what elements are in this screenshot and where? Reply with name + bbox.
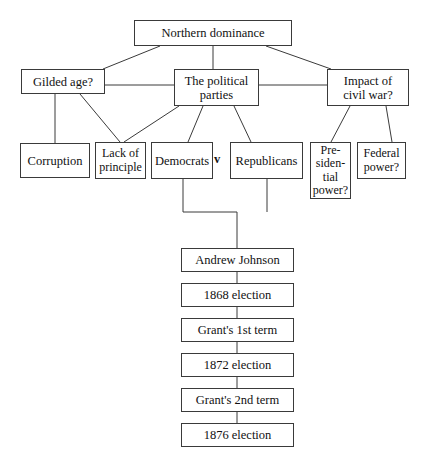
node-grants-2nd-term: Grant's 2nd term bbox=[181, 388, 294, 412]
edge-impact-civil-war-to-presidential-power bbox=[331, 106, 350, 142]
diagram-canvas: v Northern dominanceGilded age?The polit… bbox=[0, 0, 427, 466]
node-federal-power: Federal power? bbox=[357, 142, 406, 179]
edge-northern-dominance-to-gilded-age bbox=[103, 46, 160, 69]
node-grants-1st-term: Grant's 1st term bbox=[181, 318, 294, 342]
node-lack-of-principle: Lack of principle bbox=[95, 142, 146, 179]
node-election-1872: 1872 election bbox=[181, 353, 294, 377]
edge-northern-dominance-to-impact-civil-war bbox=[266, 46, 331, 69]
edge-democrats-to-andrew-johnson bbox=[183, 179, 237, 248]
node-impact-civil-war: Impact of civil war? bbox=[327, 69, 409, 106]
edge-political-parties-to-republicans bbox=[234, 106, 251, 142]
edge-political-parties-to-democrats bbox=[188, 106, 203, 142]
node-corruption: Corruption bbox=[20, 143, 90, 178]
edge-political-parties-to-lack-of-principle bbox=[124, 106, 179, 142]
node-election-1868: 1868 election bbox=[181, 283, 294, 307]
node-presidential-power: Pre- siden- tial power? bbox=[310, 142, 351, 199]
node-election-1876: 1876 election bbox=[181, 423, 294, 447]
node-northern-dominance: Northern dominance bbox=[134, 20, 292, 46]
node-gilded-age: Gilded age? bbox=[21, 69, 105, 94]
edge-impact-civil-war-to-federal-power bbox=[386, 106, 392, 142]
node-democrats: Democrats bbox=[151, 142, 213, 179]
node-republicans: Republicans bbox=[230, 142, 303, 179]
node-andrew-johnson: Andrew Johnson bbox=[181, 248, 294, 272]
node-political-parties: The political parties bbox=[174, 69, 259, 106]
edge-gilded-age-to-lack-of-principle bbox=[80, 94, 120, 142]
versus-separator-label: v bbox=[214, 153, 220, 166]
